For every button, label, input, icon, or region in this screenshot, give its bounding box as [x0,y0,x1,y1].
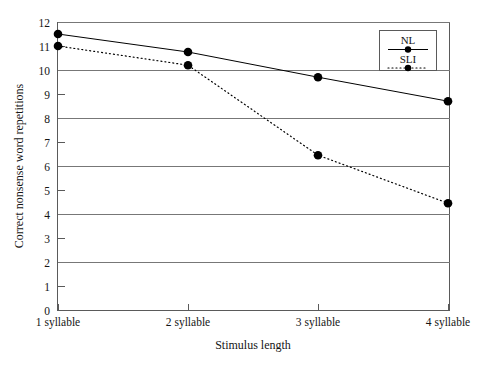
x-axis-title: Stimulus length [215,338,291,352]
sli-data-point [444,199,453,208]
x-tick-label: 1 syllable [36,316,80,329]
x-axis-ticks [59,304,449,311]
x-tick-label: 4 syllable [426,316,470,329]
y-tick-label: 12 [39,17,51,29]
y-tick-label: 5 [44,185,50,197]
y-tick-label: 2 [44,257,50,269]
line-chart: 12 11 10 9 8 7 6 5 4 3 2 1 0 1 syllable … [0,0,487,368]
x-tick-label: 3 syllable [296,316,340,329]
y-tick-label: 3 [44,233,50,245]
nl-data-point [54,30,63,39]
chart-legend: NL SLI [380,31,437,72]
sli-data-point [314,151,323,160]
y-tick-label: 6 [44,161,50,173]
nl-data-point [314,73,323,82]
nl-data-point [184,48,193,57]
y-tick-label: 4 [44,209,50,221]
y-tick-label: 9 [44,89,50,101]
nl-data-point [444,97,453,106]
y-axis-title: Correct nonsense word repetitions [12,84,26,249]
x-axis-tick-labels: 1 syllable 2 syllable 3 syllable 4 sylla… [36,316,470,329]
y-tick-label: 1 [44,281,50,293]
y-axis-tick-labels: 12 11 10 9 8 7 6 5 4 3 2 1 0 [39,17,51,317]
y-tick-label: 7 [44,137,50,149]
legend-item-sli-label: SLI [400,53,417,65]
y-tick-label: 0 [44,305,50,317]
y-tick-label: 11 [39,41,50,53]
sli-data-point [184,61,193,70]
x-tick-label: 2 syllable [166,316,210,329]
legend-item-nl-label: NL [401,34,416,46]
y-tick-label: 8 [44,113,50,125]
sli-data-point [54,42,63,51]
y-tick-label: 10 [39,65,51,77]
chart-container: 12 11 10 9 8 7 6 5 4 3 2 1 0 1 syllable … [0,0,487,368]
